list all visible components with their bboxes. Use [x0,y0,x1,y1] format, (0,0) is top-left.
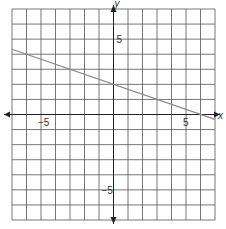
y-axis-label: y [114,0,121,9]
axes: xy [4,0,224,224]
x-axis-label: x [217,110,224,121]
y-axis-down-arrow-icon [111,217,117,224]
y-tick-label: 5 [117,34,123,45]
coordinate-plane: xy −555−5 [0,0,226,229]
x-tick-label: −5 [38,117,50,128]
y-tick-label: −5 [102,185,114,196]
x-axis-left-arrow-icon [4,112,10,118]
x-tick-label: 5 [183,117,189,128]
